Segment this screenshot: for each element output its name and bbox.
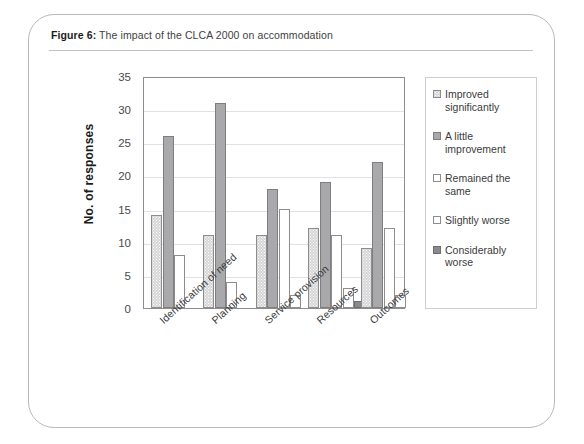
y-axis-tick-label: 0	[99, 303, 131, 315]
caption-divider	[49, 50, 533, 51]
y-axis-tick-label: 15	[99, 204, 131, 216]
bar	[151, 215, 162, 308]
legend-swatch-icon	[433, 90, 441, 98]
legend-swatch-icon	[433, 246, 441, 254]
figure-caption: Figure 6: The impact of the CLCA 2000 on…	[51, 29, 521, 41]
y-axis-tick-label: 10	[99, 237, 131, 249]
legend-item[interactable]: Slightly worse	[433, 214, 532, 227]
legend-item[interactable]: Considerably worse	[433, 244, 532, 269]
legend-item[interactable]: A little improvement	[433, 130, 532, 155]
figure-card: Figure 6: The impact of the CLCA 2000 on…	[28, 14, 555, 428]
bar	[361, 248, 372, 308]
legend-swatch-icon	[433, 132, 441, 140]
legend-swatch-icon	[433, 216, 441, 224]
legend-item[interactable]: Improved significantly	[433, 88, 532, 113]
bar	[320, 182, 331, 308]
y-axis-ticks: 05101520253035	[105, 77, 137, 309]
legend-label: Considerably worse	[445, 244, 532, 269]
y-axis-tick-label: 35	[99, 71, 131, 83]
legend-swatch-icon	[433, 174, 441, 182]
bar-group	[354, 78, 406, 308]
y-axis-tick-label: 30	[99, 104, 131, 116]
legend-item[interactable]: Remained the same	[433, 172, 532, 197]
legend-label: Improved significantly	[445, 88, 532, 113]
y-axis-tick-label: 5	[99, 270, 131, 282]
y-axis-tick-label: 25	[99, 137, 131, 149]
plot-area	[143, 77, 405, 309]
legend-label: Remained the same	[445, 172, 532, 197]
y-axis-tick-label: 20	[99, 170, 131, 182]
bar-group	[249, 78, 301, 308]
bar-group	[144, 78, 196, 308]
chart-legend: Improved significantlyA little improveme…	[425, 77, 537, 309]
bar	[256, 235, 267, 308]
bar	[372, 162, 383, 308]
bar-chart: No. of responses 05101520253035 Identifi…	[47, 59, 537, 409]
y-axis-title: No. of responses	[82, 94, 96, 254]
figure-caption-text: The impact of the CLCA 2000 on accommoda…	[99, 29, 333, 41]
legend-label: Slightly worse	[445, 214, 510, 227]
bar	[163, 136, 174, 308]
bars-layer	[144, 78, 404, 308]
figure-caption-label: Figure 6:	[51, 29, 96, 41]
legend-label: A little improvement	[445, 130, 532, 155]
bar	[267, 189, 278, 308]
x-axis-labels: Identification of needPlanningService pr…	[143, 311, 405, 407]
